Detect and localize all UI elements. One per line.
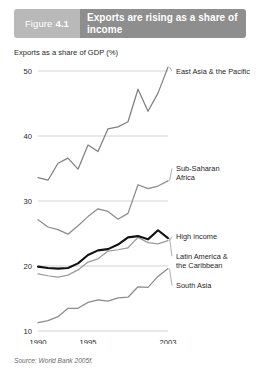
y-tick-label: 10: [24, 327, 32, 336]
x-tick-label: 1995: [80, 338, 97, 344]
x-tick-label-group: 199019952003: [30, 338, 177, 344]
figure-card: Figure 4.1 Exports are rising as a share…: [0, 0, 260, 386]
series-label: High income: [176, 232, 217, 241]
label-leader-line: [170, 67, 173, 71]
leader-lines-group: [170, 67, 173, 285]
series-line: [38, 67, 168, 180]
figure-number-word: Figure: [25, 18, 53, 29]
x-tick-label: 2003: [160, 338, 177, 344]
label-leader-line: [170, 169, 173, 181]
y-tick-label: 20: [24, 262, 32, 271]
series-lines-group: [38, 67, 168, 322]
figure-title: Exports are rising as a share of income: [87, 12, 240, 35]
y-tick-label: 50: [24, 67, 32, 76]
figure-title-bar: Exports are rising as a share of income: [80, 9, 246, 38]
chart-area: Exports as a share of GDP (%) 5040302010…: [0, 44, 260, 344]
series-label-group: East Asia & the PacificSub-SaharanAfrica…: [176, 67, 250, 291]
label-leader-line: [170, 238, 173, 256]
series-line: [38, 181, 168, 234]
figure-number-badge: Figure 4.1: [14, 9, 80, 38]
y-tick-label: 30: [24, 197, 32, 206]
series-label: East Asia & the Pacific: [176, 67, 250, 76]
figure-number-value: 4.1: [56, 18, 70, 29]
figure-header: Figure 4.1 Exports are rising as a share…: [14, 9, 246, 38]
line-chart-plot: 5040302010 199019952003 East Asia & the …: [0, 44, 260, 344]
y-tick-label: 40: [24, 132, 32, 141]
series-line: [38, 237, 168, 277]
series-label: Latin America &the Caribbean: [176, 252, 228, 270]
series-line: [38, 230, 168, 268]
source-note: Source: World Bank 2005f.: [14, 357, 93, 364]
series-label: South Asia: [176, 281, 212, 290]
label-leader-line: [170, 269, 173, 286]
y-tick-label-group: 5040302010: [24, 67, 32, 336]
x-tick-label: 1990: [30, 338, 47, 344]
series-label: Sub-SaharanAfrica: [176, 164, 220, 182]
